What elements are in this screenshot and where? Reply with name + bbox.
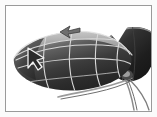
perspective-viewport[interactable]: Shaded 3D leaf-shaped ellipsoid with wir… (6, 6, 151, 111)
scene-canvas[interactable] (6, 6, 151, 111)
screenshot-root: Shaded 3D leaf-shaped ellipsoid with wir… (0, 0, 157, 117)
image-frame-border: Shaded 3D leaf-shaped ellipsoid with wir… (5, 5, 152, 112)
